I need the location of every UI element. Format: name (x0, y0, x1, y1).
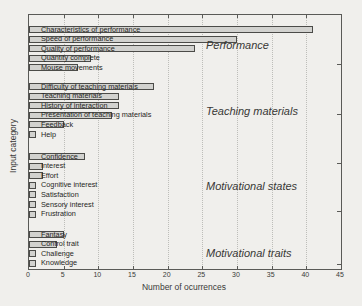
x-axis-top-tick-40 (306, 15, 307, 18)
bar-chart-figure: Input category Characteristics of perfor… (0, 0, 362, 306)
gridline-x-40 (306, 15, 307, 269)
gridline-x-30 (237, 15, 238, 269)
x-tick-label-0: 0 (16, 270, 40, 279)
y-axis-label: Input category (8, 119, 18, 173)
x-tick-label-40: 40 (293, 270, 317, 279)
x-axis-bottom-tick-30 (237, 266, 238, 269)
bar-knowledge (29, 260, 36, 267)
bar-label: Speed of performance (41, 35, 113, 43)
x-axis-top-tick-25 (202, 15, 203, 18)
bar-label: Challenge (41, 250, 74, 258)
y-axis-right-tick-4 (337, 264, 341, 265)
x-axis-top-tick-15 (133, 15, 134, 18)
x-axis-top-tick-10 (98, 15, 99, 18)
x-tick-label-20: 20 (155, 270, 179, 279)
bar-label: Mouse movements (41, 64, 103, 72)
bar-label: Cognitive interest (41, 181, 97, 189)
x-tick-label-25: 25 (189, 270, 213, 279)
gridline-x-35 (272, 15, 273, 269)
x-axis-top-tick-30 (237, 15, 238, 18)
bar-sensory-interest (29, 201, 36, 208)
x-tick-label-5: 5 (51, 270, 75, 279)
y-axis-right-tick-1 (337, 114, 341, 115)
x-tick-label-30: 30 (224, 270, 248, 279)
group-label-2: Motivational states (206, 180, 297, 193)
bar-label: Frustration (41, 210, 76, 218)
bar-label: Knowledge (41, 259, 77, 267)
x-axis-bottom-tick-40 (306, 266, 307, 269)
x-axis-bottom-tick-10 (98, 266, 99, 269)
x-axis-bottom-tick-35 (272, 266, 273, 269)
bar-label: Characteristics of performance (41, 26, 140, 34)
bar-label: Control trait (41, 240, 79, 248)
bar-label: Help (41, 131, 56, 139)
bar-frustration (29, 211, 36, 218)
bar-label: Satisfaction (41, 191, 79, 199)
bar-label: Presentation of teaching materials (41, 111, 151, 119)
y-axis-right-tick-2 (337, 163, 341, 164)
x-axis-bottom-tick-25 (202, 266, 203, 269)
bar-label: Teaching materials (41, 92, 102, 100)
gridline-x-15 (133, 15, 134, 269)
bar-label: Feedback (41, 121, 73, 129)
x-tick-label-45: 45 (328, 270, 352, 279)
x-tick-label-10: 10 (85, 270, 109, 279)
bar-label: Difficulty of teaching materials (41, 83, 138, 91)
bar-help (29, 131, 36, 138)
y-axis-right-tick-3 (337, 211, 341, 212)
group-label-0: Performance (206, 39, 269, 52)
x-axis-bottom-tick-20 (168, 266, 169, 269)
bar-label: Quality of performance (41, 45, 115, 53)
bar-cognitive-interest (29, 182, 36, 189)
plot-area: Characteristics of performanceSpeed of p… (28, 14, 342, 270)
bar-label: Quantity complete (41, 54, 100, 62)
x-axis-top-tick-35 (272, 15, 273, 18)
bar-label: Sensory interest (41, 201, 94, 209)
x-axis-label: Number of ocurrences (28, 282, 340, 292)
y-axis-right-tick-0 (337, 64, 341, 65)
x-tick-label-15: 15 (120, 270, 144, 279)
bar-label: History of interaction (41, 102, 108, 110)
gridline-x-20 (168, 15, 169, 269)
x-axis-top-tick-5 (64, 15, 65, 18)
bar-label: Interest (41, 162, 65, 170)
x-axis-top-tick-20 (168, 15, 169, 18)
x-tick-label-35: 35 (259, 270, 283, 279)
bar-challenge (29, 250, 36, 257)
group-label-1: Teaching materials (206, 105, 298, 118)
bar-label: Confidence (41, 153, 78, 161)
bar-label: Effort (41, 172, 58, 180)
x-axis-bottom-tick-15 (133, 266, 134, 269)
bar-label: Fantasy (41, 231, 67, 239)
bar-satisfaction (29, 191, 36, 198)
group-label-3: Motivational traits (206, 247, 292, 260)
gridline-x-25 (202, 15, 203, 269)
